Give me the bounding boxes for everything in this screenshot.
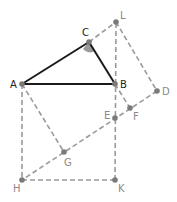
point-G xyxy=(61,149,67,155)
label-K: K xyxy=(118,183,125,194)
label-C: C xyxy=(82,27,89,38)
label-G: G xyxy=(64,157,72,168)
point-H xyxy=(19,177,25,183)
label-A: A xyxy=(10,79,17,90)
label-H: H xyxy=(13,183,21,194)
point-C xyxy=(86,39,92,45)
point-F xyxy=(127,105,133,111)
segment-CA xyxy=(22,42,89,84)
segment-DH xyxy=(22,91,157,180)
segment-CL xyxy=(89,22,116,42)
label-B: B xyxy=(120,79,127,90)
triangle-ABC xyxy=(22,42,115,84)
point-L xyxy=(113,19,119,25)
point-B xyxy=(112,81,118,87)
segment-AG xyxy=(22,84,64,152)
point-E xyxy=(112,115,118,121)
label-E: E xyxy=(104,110,110,121)
label-D: D xyxy=(162,86,170,97)
geometry-diagram: A B C L D E F G H K xyxy=(0,0,177,202)
points xyxy=(19,19,160,183)
segment-BC xyxy=(89,42,115,84)
point-D xyxy=(154,88,160,94)
point-A xyxy=(19,81,25,87)
label-L: L xyxy=(120,10,126,21)
segment-KL xyxy=(115,22,116,180)
label-F: F xyxy=(133,111,139,122)
point-K xyxy=(112,177,118,183)
